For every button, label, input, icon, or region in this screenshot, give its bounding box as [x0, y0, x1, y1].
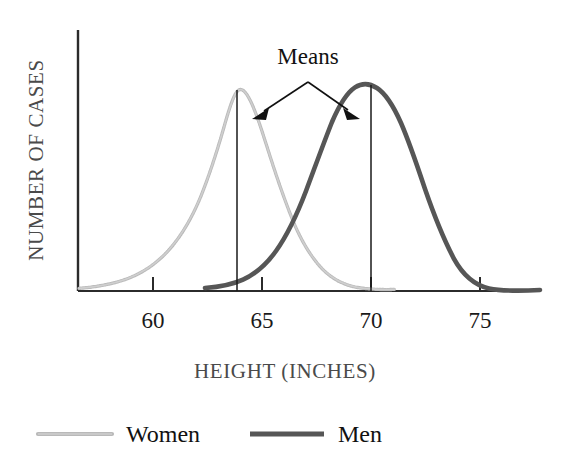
chart-figure: Means 60 65 70 75 HEIGHT (INCHES) NUMBER…: [0, 0, 567, 476]
x-tick-label-70: 70: [360, 308, 383, 333]
x-tick-label-60: 60: [142, 308, 165, 333]
legend-label-men: Men: [338, 421, 382, 447]
y-axis-title: NUMBER OF CASES: [24, 59, 48, 261]
means-annotation-label: Means: [277, 44, 338, 69]
x-axis-title: HEIGHT (INCHES): [194, 359, 376, 383]
x-tick-label-75: 75: [469, 308, 492, 333]
x-tick-label-65: 65: [251, 308, 274, 333]
normal-distribution-chart: Means 60 65 70 75 HEIGHT (INCHES) NUMBER…: [0, 0, 567, 476]
legend-label-women: Women: [126, 421, 200, 447]
